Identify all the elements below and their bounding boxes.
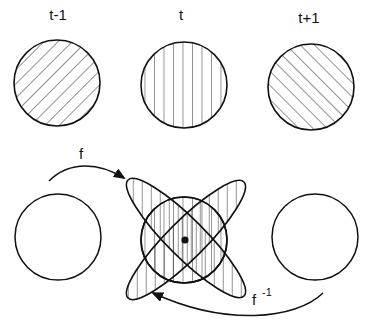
label-t-minus-1: t-1: [49, 6, 67, 23]
label-f: f: [79, 145, 84, 162]
label-t: t: [179, 6, 184, 23]
circle-t-minus-1: [14, 40, 100, 126]
circle-bottom-left: [15, 194, 101, 280]
diagram-canvas: t-1 t t+1 f f -1: [0, 0, 370, 334]
central-fixed-point-figure: [115, 167, 258, 312]
circle-t: [141, 42, 227, 128]
label-t-plus-1: t+1: [298, 9, 319, 26]
label-f-inverse-superscript: -1: [262, 286, 272, 298]
circle-bottom-right: [272, 194, 358, 280]
arrow-f: f: [49, 145, 124, 181]
fixed-point-dot: [181, 236, 188, 243]
circle-t-plus-1: [268, 44, 354, 130]
label-f-inverse: f: [252, 291, 257, 308]
